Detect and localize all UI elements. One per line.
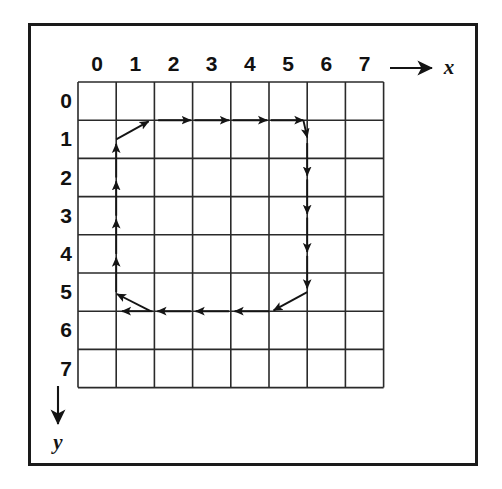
- column-tick-label-1: 1: [129, 52, 141, 75]
- row-tick-label-0: 0: [60, 89, 72, 112]
- path-arrow-turn-br: [274, 292, 308, 310]
- column-tick-label-4: 4: [244, 52, 256, 75]
- row-tick-label-5: 5: [60, 280, 72, 303]
- column-tick-label-3: 3: [206, 52, 218, 75]
- column-tick-labels: 01234567: [91, 52, 370, 75]
- grid-diagram-figure: 01234567 01234567 x y: [0, 0, 502, 489]
- column-tick-label-0: 0: [91, 52, 103, 75]
- column-tick-label-2: 2: [168, 52, 180, 75]
- row-tick-labels: 01234567: [60, 89, 72, 379]
- arrow-path-loop: [116, 120, 307, 311]
- row-tick-label-6: 6: [60, 318, 72, 341]
- column-tick-label-5: 5: [282, 52, 294, 75]
- column-tick-label-7: 7: [359, 52, 371, 75]
- row-tick-label-1: 1: [60, 127, 72, 150]
- row-tick-label-2: 2: [60, 166, 72, 189]
- y-axis-label: y: [50, 430, 63, 454]
- x-axis-label: x: [443, 55, 455, 79]
- row-tick-label-3: 3: [60, 204, 72, 227]
- figure-border-rect: [30, 25, 477, 465]
- column-tick-label-6: 6: [320, 52, 332, 75]
- path-arrow-turn-bl: [117, 294, 151, 311]
- row-tick-label-7: 7: [60, 357, 72, 380]
- path-arrow-turn-tl: [116, 121, 148, 139]
- row-tick-label-4: 4: [60, 242, 72, 265]
- grid-lines: [78, 82, 384, 388]
